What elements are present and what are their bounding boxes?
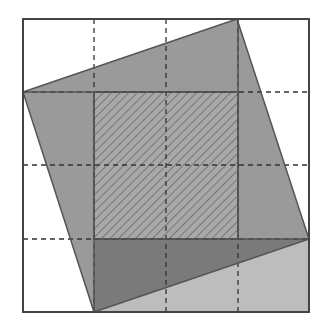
geometry-diagram	[0, 0, 327, 330]
